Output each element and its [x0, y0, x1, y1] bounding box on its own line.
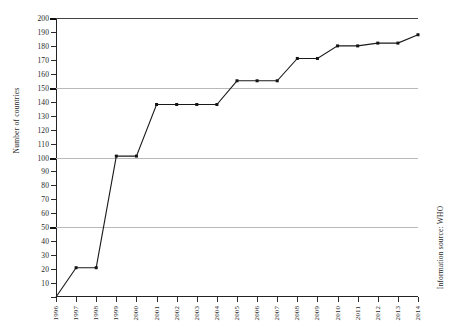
- y-tick-label-150: 150: [37, 83, 49, 92]
- y-tick-label-180: 180: [37, 41, 49, 50]
- x-tick-2014: [418, 297, 419, 302]
- data-point-2009: [316, 57, 319, 60]
- plot-area: 1020304050607080901001101201301401501601…: [56, 18, 418, 297]
- x-tick-2002: [177, 297, 178, 302]
- data-point-2012: [376, 42, 379, 45]
- data-point-1999: [115, 155, 118, 158]
- y-tick-label-160: 160: [37, 69, 49, 78]
- x-tick-2011: [358, 297, 359, 302]
- x-tick-2007: [277, 297, 278, 302]
- series-line: [56, 35, 418, 297]
- y-tick-label-100: 100: [37, 153, 49, 162]
- data-point-2007: [276, 79, 279, 82]
- x-tick-label-1996: 1996: [52, 306, 60, 320]
- x-tick-label-2008: 2008: [293, 306, 301, 320]
- y-tick-label-50: 50: [41, 223, 49, 232]
- y-tick-label-40: 40: [41, 237, 49, 246]
- x-tick-label-2009: 2009: [313, 306, 321, 320]
- x-tick-label-2000: 2000: [132, 306, 140, 320]
- y-tick-label-190: 190: [37, 27, 49, 36]
- data-point-2004: [215, 103, 218, 106]
- x-tick-2008: [297, 297, 298, 302]
- x-tick-label-1999: 1999: [112, 306, 120, 320]
- data-point-2010: [336, 44, 339, 47]
- x-tick-1997: [76, 297, 77, 302]
- data-point-2005: [236, 79, 239, 82]
- data-point-2003: [195, 103, 198, 106]
- x-tick-2001: [157, 297, 158, 302]
- x-tick-1996: [56, 297, 57, 302]
- x-tick-1998: [96, 297, 97, 302]
- x-tick-label-2006: 2006: [253, 306, 261, 320]
- y-tick-label-170: 170: [37, 55, 49, 64]
- x-tick-2000: [136, 297, 137, 302]
- x-tick-1999: [116, 297, 117, 302]
- data-point-2002: [175, 103, 178, 106]
- y-tick-label-120: 120: [37, 125, 49, 134]
- x-tick-label-2011: 2011: [354, 306, 362, 320]
- x-tick-2006: [257, 297, 258, 302]
- x-tick-label-2014: 2014: [414, 306, 422, 320]
- y-tick-label-70: 70: [41, 195, 49, 204]
- line-chart: Number of countries Information source: …: [0, 0, 450, 330]
- data-point-2008: [296, 57, 299, 60]
- y-tick-label-30: 30: [41, 251, 49, 260]
- y-tick-label-60: 60: [41, 209, 49, 218]
- x-tick-label-1997: 1997: [72, 306, 80, 320]
- data-series-layer: [56, 18, 418, 297]
- y-tick-label-110: 110: [38, 139, 49, 148]
- x-tick-2003: [197, 297, 198, 302]
- y-tick-label-90: 90: [41, 167, 49, 176]
- x-tick-2010: [338, 297, 339, 302]
- y-tick-label-10: 10: [41, 279, 49, 288]
- x-tick-2013: [398, 297, 399, 302]
- data-point-2011: [356, 44, 359, 47]
- x-tick-2012: [378, 297, 379, 302]
- x-tick-label-2003: 2003: [193, 306, 201, 320]
- data-point-2013: [396, 42, 399, 45]
- x-tick-2004: [217, 297, 218, 302]
- x-tick-label-2007: 2007: [273, 306, 281, 320]
- data-point-2006: [256, 79, 259, 82]
- x-tick-label-2001: 2001: [153, 306, 161, 320]
- x-tick-label-2004: 2004: [213, 306, 221, 320]
- x-tick-label-1998: 1998: [92, 306, 100, 320]
- data-point-2001: [155, 103, 158, 106]
- data-point-2000: [135, 155, 138, 158]
- y-tick-label-20: 20: [41, 265, 49, 274]
- x-tick-2005: [237, 297, 238, 302]
- information-source-note: Information source: WHO: [436, 168, 445, 328]
- data-point-1998: [95, 266, 98, 269]
- series-markers: [75, 33, 420, 269]
- x-tick-2009: [317, 297, 318, 302]
- x-tick-label-2013: 2013: [394, 306, 402, 320]
- x-tick-label-2005: 2005: [233, 306, 241, 320]
- x-tick-label-2002: 2002: [173, 306, 181, 320]
- x-tick-label-2010: 2010: [334, 306, 342, 320]
- data-point-1997: [75, 266, 78, 269]
- y-tick-label-80: 80: [41, 181, 49, 190]
- y-tick-label-200: 200: [37, 14, 49, 23]
- y-axis-title: Number of countries: [12, 61, 21, 181]
- y-tick-label-130: 130: [37, 111, 49, 120]
- y-tick-label-140: 140: [37, 97, 49, 106]
- data-point-2014: [417, 33, 420, 36]
- x-tick-label-2012: 2012: [374, 306, 382, 320]
